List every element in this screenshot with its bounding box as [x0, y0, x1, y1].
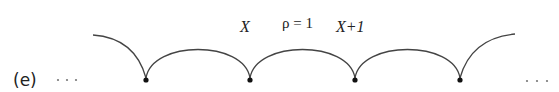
- label-x-plus-1: X+1: [335, 18, 365, 35]
- label-rho: ρ = 1: [282, 15, 313, 31]
- node-1: [143, 77, 148, 82]
- arc-right-partial: [460, 34, 515, 78]
- right-ellipsis: [526, 80, 548, 82]
- arcs: [93, 34, 515, 78]
- label-x: X: [239, 18, 251, 35]
- chain-diagram: (e) X ρ = 1 X+1: [0, 0, 559, 92]
- node-3: [352, 77, 357, 82]
- node-4: [457, 77, 462, 82]
- node-2: [247, 77, 252, 82]
- arc-3: [355, 50, 460, 79]
- arc-2: [250, 50, 355, 79]
- arc-1: [146, 50, 250, 79]
- panel-label: (e): [13, 70, 37, 90]
- nodes: [143, 77, 462, 82]
- left-ellipsis: [57, 79, 77, 81]
- arc-left-partial: [93, 35, 146, 78]
